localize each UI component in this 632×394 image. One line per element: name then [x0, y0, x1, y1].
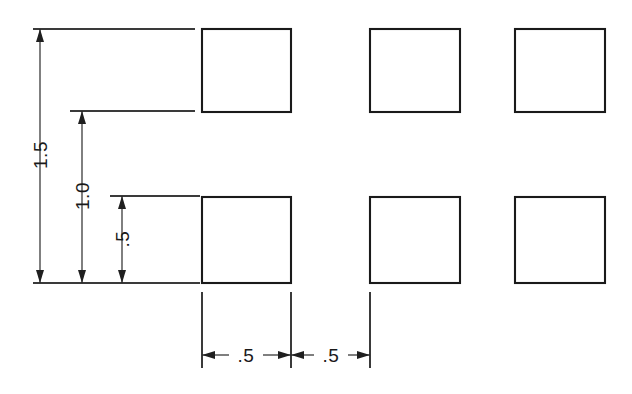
dimension-label-width-right: .5 — [323, 345, 340, 366]
square-bottom-left — [202, 197, 291, 283]
arrow-right-width-left — [278, 351, 291, 359]
dimension-label-0-5: .5 — [112, 231, 133, 248]
square-top-left — [202, 29, 291, 112]
dimension-label-width-left: .5 — [238, 345, 255, 366]
arrow-down-1-0 — [78, 270, 86, 283]
dimension-label-1-5: 1.5 — [30, 141, 51, 169]
arrow-down-0-5 — [118, 270, 126, 283]
arrow-left-width-left — [202, 351, 215, 359]
arrow-right-width-right — [357, 351, 370, 359]
arrow-down-1-5 — [36, 270, 44, 283]
vertical-dimension-group: 1.5 1.0 .5 — [30, 29, 201, 283]
drawing-svg-surface: 1.5 1.0 .5 .5 — [0, 0, 632, 394]
square-bottom-right — [515, 197, 605, 283]
arrow-left-width-right — [291, 351, 304, 359]
square-array-group — [202, 29, 605, 283]
square-bottom-center — [370, 197, 460, 283]
arrow-up-1-5 — [36, 29, 44, 42]
square-top-center — [370, 29, 460, 112]
arrow-up-1-0 — [78, 111, 86, 124]
arrow-up-0-5 — [118, 196, 126, 209]
engineering-drawing-canvas: 1.5 1.0 .5 .5 — [0, 0, 632, 394]
square-top-right — [515, 29, 605, 112]
dimension-label-1-0: 1.0 — [72, 182, 93, 210]
horizontal-dimension-group: .5 .5 — [202, 292, 370, 368]
